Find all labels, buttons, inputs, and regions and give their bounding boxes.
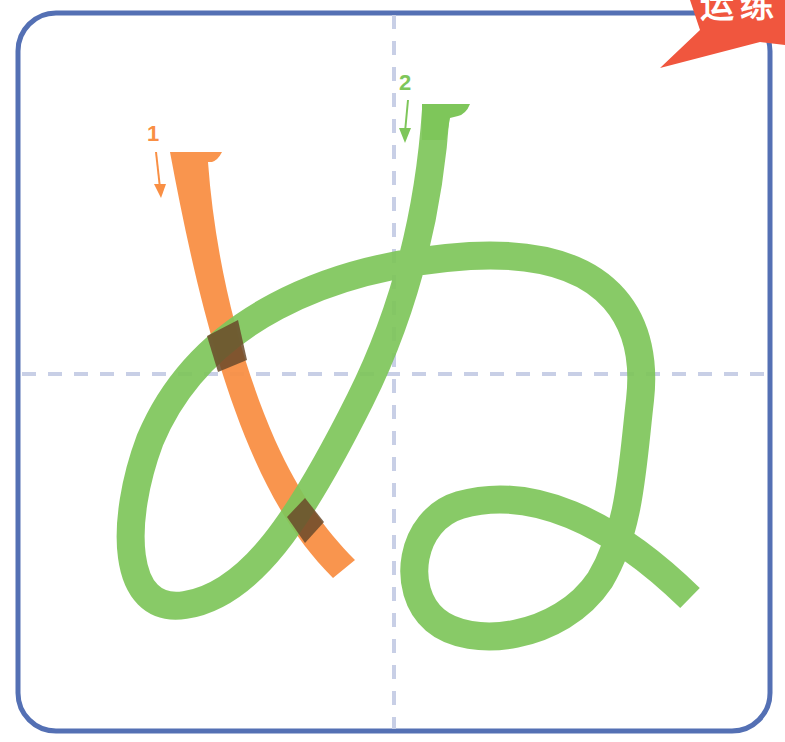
stroke-order-diagram — [0, 0, 785, 742]
badge-text: 运练 — [700, 0, 780, 27]
stroke-number-1: 1 — [147, 121, 159, 147]
stroke-number-2: 2 — [399, 70, 411, 96]
